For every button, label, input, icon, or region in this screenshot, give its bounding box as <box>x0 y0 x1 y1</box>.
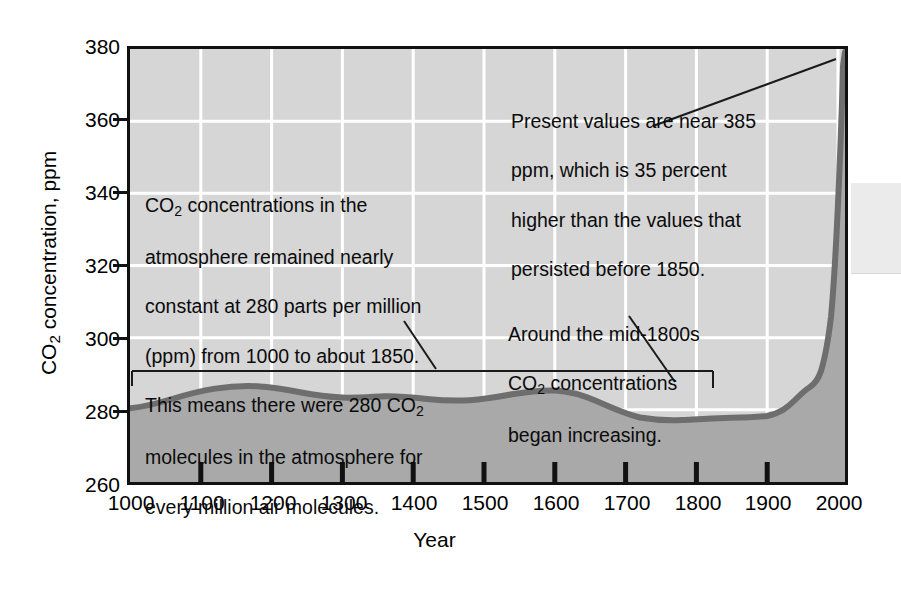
y-tick-mark <box>113 337 128 340</box>
y-tick-mark <box>113 410 128 413</box>
y-tick-label: 320 <box>64 255 120 276</box>
x-tick-label: 2000 <box>799 492 879 513</box>
y-axis-title-pre: CO <box>37 344 60 376</box>
right-margin-panel <box>851 183 901 273</box>
annotation-text: concentrations <box>545 372 677 394</box>
annotation-text: This means there were 280 CO <box>145 394 416 416</box>
y-tick-label: 280 <box>64 401 120 422</box>
y-axis-title-post: concentration, ppm <box>37 151 60 335</box>
annotation-text: concentrations in the <box>182 194 367 216</box>
annotation-line: This means there were 280 CO2 <box>145 393 455 420</box>
annotation-text: ppm, which is 35 percent <box>511 159 727 181</box>
y-tick-label: 380 <box>64 36 120 57</box>
annotation-line: CO2 concentrations in the <box>145 193 455 220</box>
annotation-text: Present values are near 385 <box>511 110 756 132</box>
annotation-text: Around the mid-1800s <box>508 323 700 345</box>
annotation-line: constant at 280 parts per million <box>145 294 455 319</box>
annotation-line: Around the mid-1800s <box>508 322 758 347</box>
annotation-line: higher than the values that <box>511 208 821 233</box>
annotation-line: Present values are near 385 <box>511 109 821 134</box>
y-tick-label: 360 <box>64 109 120 130</box>
chart-figure: 380 360 340 320 300 280 260 <box>0 0 901 592</box>
y-axis-title-sub: 2 <box>46 335 63 343</box>
x-tick-label: 1700 <box>587 492 667 513</box>
annotation-text: began increasing. <box>508 424 662 446</box>
annotation-text: persisted before 1850. <box>511 258 705 280</box>
x-tick-label: 1600 <box>516 492 596 513</box>
y-tick-mark <box>113 118 128 121</box>
annotation-present-values: Present values are near 385 ppm, which i… <box>511 84 821 307</box>
annotation-text: CO <box>508 372 537 394</box>
annotation-line: (ppm) from 1000 to about 1850. <box>145 344 455 369</box>
annotation-text: molecules in the atmosphere for <box>145 446 422 468</box>
y-tick-mark <box>113 191 128 194</box>
annotation-subscript: 2 <box>537 381 545 397</box>
annotation-text: (ppm) from 1000 to about 1850. <box>145 345 419 367</box>
annotation-subscript: 2 <box>416 403 424 419</box>
y-tick-mark <box>113 264 128 267</box>
annotation-text: constant at 280 parts per million <box>145 295 421 317</box>
annotation-line: began increasing. <box>508 423 758 448</box>
annotation-line: ppm, which is 35 percent <box>511 158 821 183</box>
annotation-text: higher than the values that <box>511 209 741 231</box>
annotation-text: every million air molecules. <box>145 496 379 518</box>
annotation-line: atmosphere remained nearly <box>145 245 455 270</box>
y-tick-label: 340 <box>64 182 120 203</box>
annotation-rise-onset: Around the mid-1800s CO2 concentrations … <box>508 297 758 473</box>
x-tick-label: 1800 <box>658 492 738 513</box>
annotation-line: molecules in the atmosphere for <box>145 445 455 470</box>
annotation-line: CO2 concentrations <box>508 371 758 398</box>
x-tick-label: 1900 <box>728 492 808 513</box>
y-tick-label: 300 <box>64 328 120 349</box>
y-axis-title: CO2 concentration, ppm <box>37 63 63 463</box>
annotation-text: atmosphere remained nearly <box>145 246 393 268</box>
right-margin-rule <box>851 273 901 274</box>
annotation-text: CO <box>145 194 174 216</box>
annotation-line: every million air molecules. <box>145 495 455 520</box>
annotation-plateau: CO2 concentrations in the atmosphere rem… <box>145 168 455 544</box>
annotation-subscript: 2 <box>174 202 182 218</box>
annotation-line: persisted before 1850. <box>511 257 821 282</box>
x-tick-label: 1500 <box>445 492 525 513</box>
